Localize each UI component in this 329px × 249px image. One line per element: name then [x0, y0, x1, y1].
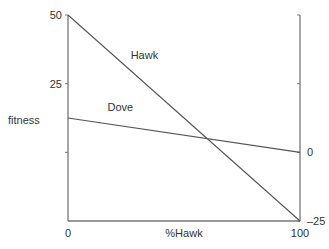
chart-canvas: 50250–250100%HawkfitnessHawkDove — [0, 0, 329, 249]
left-y-tick-label: 50 — [50, 9, 62, 21]
x-tick-label: 0 — [65, 227, 71, 239]
hawk-dove-fitness-chart: 50250–250100%HawkfitnessHawkDove — [0, 0, 329, 249]
series-line-hawk — [68, 15, 300, 221]
series-lines — [68, 15, 300, 221]
series-label-dove: Dove — [107, 101, 133, 113]
labels: 50250–250100%HawkfitnessHawkDove — [8, 9, 325, 239]
series-line-dove — [68, 118, 300, 152]
y-axis-label: fitness — [8, 114, 40, 126]
left-y-tick-label: 25 — [50, 78, 62, 90]
x-tick-label: 100 — [291, 227, 309, 239]
right-y-tick-label: 0 — [307, 146, 313, 158]
series-label-hawk: Hawk — [131, 49, 159, 61]
right-y-tick-label: –25 — [307, 215, 325, 227]
x-axis-label: %Hawk — [165, 227, 203, 239]
